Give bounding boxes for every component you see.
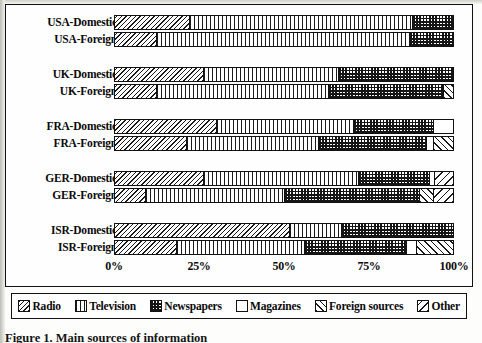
legend-swatch-other-icon (417, 300, 429, 312)
bar-segment-newspapers (412, 16, 453, 29)
x-axis: 0%25%50%75%100% (114, 259, 454, 277)
bar-track (114, 188, 454, 203)
bar-group-ger: GER-DomesticGER-Foreign (6, 171, 472, 203)
bar-segment-foreign (443, 85, 453, 98)
bar-track (114, 67, 454, 82)
bar-segment-magazines (406, 241, 416, 254)
bar-track (114, 171, 454, 186)
bar-segment-radio (115, 68, 203, 81)
x-tick-label: 0% (105, 259, 122, 274)
bar-segment-television (186, 137, 318, 150)
bar-row-label: ISR-Foreign (0, 240, 117, 255)
bar-segment-television (145, 189, 284, 202)
bar-segment-radio (115, 241, 176, 254)
bar-row: ISR-Foreign (6, 240, 472, 255)
bar-row-label: ISR-Domestic (0, 223, 117, 238)
legend-item-magazines[interactable]: Magazines (236, 300, 301, 312)
x-tick-label: 100% (440, 259, 469, 274)
bar-segment-newspapers (341, 224, 453, 237)
bar-row: USA-Foreign (6, 32, 472, 47)
bar-track (114, 15, 454, 30)
bar-track (114, 32, 454, 47)
legend-label: Television (89, 300, 136, 312)
legend-label: Foreign sources (329, 300, 403, 312)
legend-swatch-foreign-icon (315, 300, 327, 312)
bar-segment-television (156, 85, 328, 98)
bar-segment-radio (115, 33, 156, 46)
bar-segment-television (289, 224, 341, 237)
bar-segment-radio (115, 16, 189, 29)
bar-segment-radio (115, 172, 203, 185)
bar-track (114, 119, 454, 134)
bar-row-label: GER-Domestic (0, 171, 117, 186)
legend-label: Radio (33, 300, 61, 312)
bar-segment-foreign (416, 241, 453, 254)
legend-swatch-television-icon (75, 300, 87, 312)
bar-row: FRA-Foreign (6, 136, 472, 151)
bar-segment-newspapers (318, 137, 426, 150)
bar-row: UK-Foreign (6, 84, 472, 99)
legend-swatch-newspapers-icon (150, 300, 162, 312)
bar-row-label: GER-Foreign (0, 188, 117, 203)
figure-caption: Figure 1. Main sources of information (5, 332, 475, 343)
bar-row-label: FRA-Domestic (0, 119, 117, 134)
bar-row-label: UK-Domestic (0, 67, 117, 82)
legend-item-other[interactable]: Other (417, 300, 460, 312)
bar-track (114, 84, 454, 99)
plot-area: USA-DomesticUSA-ForeignUK-DomesticUK-For… (6, 5, 472, 286)
legend-item-newspapers[interactable]: Newspapers (150, 300, 222, 312)
bar-segment-newspapers (284, 189, 419, 202)
legend-swatch-radio-icon (18, 300, 30, 312)
bar-segment-magazines (426, 137, 433, 150)
bar-track (114, 240, 454, 255)
bar-row-label: FRA-Foreign (0, 136, 117, 151)
bar-row-label: UK-Foreign (0, 84, 117, 99)
bar-row: ISR-Domestic (6, 223, 472, 238)
bar-segment-television (156, 33, 410, 46)
bar-segment-television (176, 241, 304, 254)
bar-segment-radio (115, 120, 216, 133)
bar-segment-television (216, 120, 353, 133)
legend-label: Magazines (250, 300, 301, 312)
bar-segment-newspapers (358, 172, 429, 185)
bar-group-isr: ISR-DomesticISR-Foreign (6, 223, 472, 255)
bar-segment-radio (115, 85, 156, 98)
x-tick-label: 50% (272, 259, 295, 274)
bar-group-uk: UK-DomesticUK-Foreign (6, 67, 472, 99)
bar-segment-newspapers (328, 85, 443, 98)
bar-segment-television (189, 16, 412, 29)
bar-segment-other (433, 189, 453, 202)
bar-segment-magazines (433, 120, 453, 133)
legend-item-television[interactable]: Television (75, 300, 136, 312)
bar-segment-radio (115, 137, 186, 150)
bar-track (114, 136, 454, 151)
bar-row: GER-Domestic (6, 171, 472, 186)
bar-row-label: USA-Domestic (0, 15, 117, 30)
legend-item-foreign[interactable]: Foreign sources (315, 300, 404, 312)
legend-label: Other (432, 300, 460, 312)
bar-row: USA-Domestic (6, 15, 472, 30)
bar-row-label: USA-Foreign (0, 32, 117, 47)
bar-segment-foreign (419, 189, 433, 202)
figure-root: USA-DomesticUSA-ForeignUK-DomesticUK-For… (0, 0, 482, 343)
legend-item-radio[interactable]: Radio (18, 300, 61, 312)
bar-group-fra: FRA-DomesticFRA-Foreign (6, 119, 472, 151)
bar-segment-newspapers (409, 33, 453, 46)
x-tick-label: 75% (357, 259, 380, 274)
bar-row: FRA-Domestic (6, 119, 472, 134)
bar-segment-radio (115, 224, 289, 237)
bar-segment-newspapers (338, 68, 453, 81)
bar-segment-television (203, 68, 338, 81)
bar-segment-foreign (433, 137, 453, 150)
legend-label: Newspapers (164, 300, 221, 312)
legend-swatch-magazines-icon (236, 300, 248, 312)
bar-track (114, 223, 454, 238)
chart-frame: USA-DomesticUSA-ForeignUK-DomesticUK-For… (5, 4, 473, 287)
bar-row: GER-Foreign (6, 188, 472, 203)
bar-segment-newspapers (353, 120, 432, 133)
x-tick-label: 25% (187, 259, 210, 274)
bar-segment-radio (115, 189, 145, 202)
bar-group-usa: USA-DomesticUSA-Foreign (6, 15, 472, 47)
bar-row: UK-Domestic (6, 67, 472, 82)
bar-segment-newspapers (304, 241, 405, 254)
